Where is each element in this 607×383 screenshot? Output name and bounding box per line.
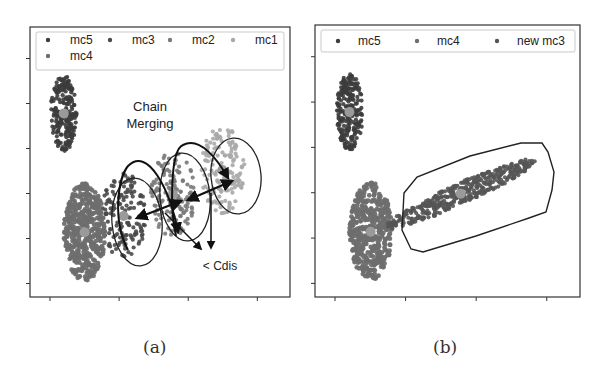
legend-label: new mc3 <box>517 34 565 48</box>
legend-marker <box>46 54 50 58</box>
legend-marker <box>231 38 235 42</box>
legend-label: mc4 <box>70 49 93 63</box>
annotation-cdis: < Cdis <box>203 259 237 273</box>
legend-marker <box>108 38 112 42</box>
annotation-chain: Chain <box>133 99 167 114</box>
legend-marker <box>46 38 50 42</box>
legend-label: mc3 <box>132 33 155 47</box>
panel-b-legend-items: mc5mc4new mc3 <box>336 34 566 48</box>
legend-label: mc5 <box>70 33 93 47</box>
legend-marker <box>495 39 499 43</box>
panel-b-caption: (b) <box>433 337 457 357</box>
panel-b-plot: mc5mc4new mc3 <box>311 25 580 301</box>
legend-label: mc2 <box>192 33 215 47</box>
annotation-merging: Merging <box>127 116 174 131</box>
legend-marker <box>336 39 340 43</box>
figure-canvas: Chain Merging < Cdis mc5mc3mc2mc1mc4 mc5… <box>0 0 607 383</box>
legend-marker <box>168 38 172 42</box>
panel-a-caption: (a) <box>143 337 166 357</box>
legend-marker <box>415 39 419 43</box>
legend-label: mc4 <box>437 34 460 48</box>
panel-a-plot: Chain Merging < Cdis mc5mc3mc2mc1mc4 <box>26 27 290 301</box>
legend-label: mc5 <box>358 34 381 48</box>
legend-label: mc1 <box>255 33 278 47</box>
